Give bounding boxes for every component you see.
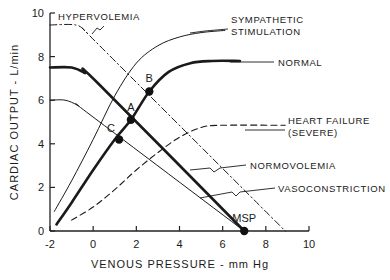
point-label-a: A	[127, 101, 135, 113]
x-tick-label: 0	[90, 238, 96, 250]
y-tick-label: 2	[38, 181, 44, 193]
curve-hypervolemia	[50, 24, 285, 231]
point-label-c: C	[107, 122, 115, 134]
point-c	[115, 135, 123, 143]
axes	[50, 13, 309, 231]
point-msp	[240, 227, 248, 235]
x-tick-label: 6	[220, 238, 226, 250]
point-b	[145, 87, 153, 95]
y-axis-label: CARDIAC OUTPUT - L/min	[8, 44, 20, 200]
point-label-msp: MSP	[232, 212, 256, 224]
y-tick-label: 10	[32, 7, 44, 19]
y-tick-label: 4	[38, 138, 44, 150]
label-normovolemia: NORMOVOLEMIA	[250, 160, 336, 171]
points: ABCMSP	[107, 72, 256, 235]
x-tick-label: 8	[263, 238, 269, 250]
ticks: -202468100246810	[32, 7, 315, 250]
label-heart-failure-2: (SEVERE)	[288, 127, 338, 138]
point-a	[127, 116, 135, 124]
label-sympathetic-1: SYMPATHETIC	[231, 14, 304, 25]
label-vasoconstriction: VASOCONSTRICTION	[278, 183, 386, 194]
y-tick-label: 0	[38, 225, 44, 237]
x-tick-label: 2	[133, 238, 139, 250]
label-normal: NORMAL	[278, 57, 322, 68]
curve-vasoconstriction	[50, 100, 244, 231]
leader-hypervolemia	[92, 26, 104, 34]
label-hypervolemia: HYPERVOLEMIA	[58, 11, 140, 22]
label-sympathetic-2: STIMULATION	[231, 26, 301, 37]
leader-lines	[92, 26, 285, 198]
curve-heart-failure-severe	[72, 125, 286, 220]
y-tick-label: 6	[38, 94, 44, 106]
curves	[50, 24, 285, 231]
cardiac-output-chart: -202468100246810 ABCMSP VENOUS PRESSURE …	[0, 0, 390, 280]
x-axis-label: VENOUS PRESSURE - mm Hg	[91, 258, 269, 270]
point-label-b: B	[146, 72, 153, 84]
leader-normovolemia	[190, 165, 246, 172]
x-tick-label: -2	[45, 238, 55, 250]
x-tick-label: 10	[303, 238, 315, 250]
y-tick-label: 8	[38, 51, 44, 63]
label-heart-failure-1: HEART FAILURE	[288, 115, 370, 126]
x-tick-label: 4	[176, 238, 182, 250]
